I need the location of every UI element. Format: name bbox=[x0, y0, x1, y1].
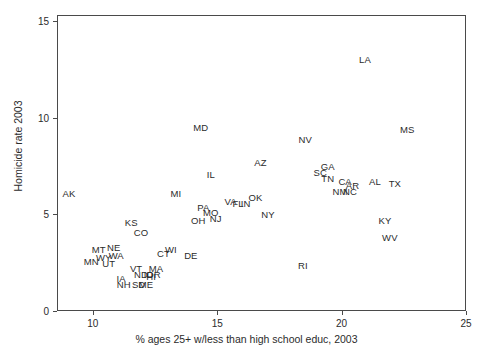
x-axis-label: % ages 25+ w/less than high school educ,… bbox=[0, 333, 493, 345]
plot-area: AKMNMTWYUTNEWAIANHKSVTSDCONDMEIDHIORMACT… bbox=[57, 15, 466, 311]
x-tick-label: 15 bbox=[212, 318, 223, 329]
data-point-mi: MI bbox=[171, 189, 182, 199]
x-tick-mark bbox=[93, 311, 94, 315]
data-point-nj: NJ bbox=[210, 214, 222, 224]
data-point-wa: WA bbox=[109, 251, 124, 261]
x-tick-label: 20 bbox=[336, 318, 347, 329]
y-axis-label: Homicide rate 2003 bbox=[12, 66, 24, 226]
scatter-plot-figure: AKMNMTWYUTNEWAIANHKSVTSDCONDMEIDHIORMACT… bbox=[0, 0, 493, 355]
y-tick-mark bbox=[53, 21, 57, 22]
data-point-nh: NH bbox=[117, 280, 131, 290]
data-point-ok: OK bbox=[249, 193, 263, 203]
data-point-la: LA bbox=[359, 56, 371, 66]
y-tick-label: 0 bbox=[23, 306, 49, 317]
data-point-ms: MS bbox=[400, 125, 414, 135]
data-point-md: MD bbox=[193, 123, 208, 133]
data-point-nv: NV bbox=[299, 135, 312, 145]
data-point-wi: WI bbox=[165, 245, 177, 255]
data-point-tn: TN bbox=[321, 174, 334, 184]
y-tick-label: 5 bbox=[23, 209, 49, 220]
data-point-tx: TX bbox=[389, 180, 401, 190]
y-tick-label: 15 bbox=[23, 15, 49, 26]
x-tick-mark bbox=[342, 311, 343, 315]
y-tick-mark bbox=[53, 311, 57, 312]
data-point-ak: AK bbox=[63, 189, 76, 199]
x-tick-mark bbox=[466, 311, 467, 315]
data-point-de: DE bbox=[184, 251, 197, 261]
y-tick-mark bbox=[53, 214, 57, 215]
data-point-il: IL bbox=[207, 170, 215, 180]
y-tick-label: 10 bbox=[23, 112, 49, 123]
data-point-ma: MA bbox=[149, 265, 163, 275]
y-tick-mark bbox=[53, 118, 57, 119]
data-point-al: AL bbox=[369, 178, 381, 188]
x-tick-label: 25 bbox=[460, 318, 471, 329]
data-point-az: AZ bbox=[254, 158, 266, 168]
data-point-ri: RI bbox=[298, 261, 308, 271]
x-tick-label: 10 bbox=[87, 318, 98, 329]
x-tick-mark bbox=[217, 311, 218, 315]
data-point-ar: AR bbox=[346, 181, 359, 191]
data-point-wv: WV bbox=[382, 234, 398, 244]
data-point-co: CO bbox=[134, 228, 148, 238]
data-point-ny: NY bbox=[261, 211, 274, 221]
data-point-ga: GA bbox=[321, 162, 335, 172]
data-point-ky: KY bbox=[378, 216, 391, 226]
